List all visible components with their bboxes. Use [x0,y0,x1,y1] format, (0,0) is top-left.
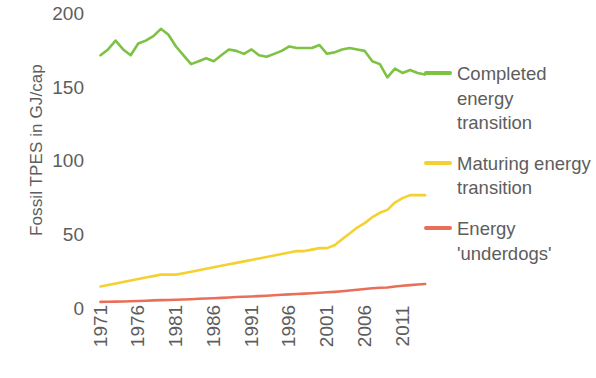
series-line-0 [101,29,426,78]
legend-label-2: Energy 'underdogs' [457,217,592,266]
chart-container: Fossil TPES in GJ/cap 200150100500 19711… [0,0,596,378]
legend-entry-0[interactable]: Completed energy transition [424,62,596,136]
legend-swatch-orange [424,226,452,230]
legend-label-0: Completed energy transition [457,62,592,136]
series-line-1 [101,195,426,286]
chart-legend: Completed energy transitionMaturing ener… [424,62,596,282]
legend-entry-1[interactable]: Maturing energy transition [424,152,596,201]
series-line-2 [101,284,426,302]
legend-swatch-green [424,71,452,75]
legend-entry-2[interactable]: Energy 'underdogs' [424,217,596,266]
legend-swatch-yellow [424,161,452,165]
legend-label-1: Maturing energy transition [457,152,592,201]
